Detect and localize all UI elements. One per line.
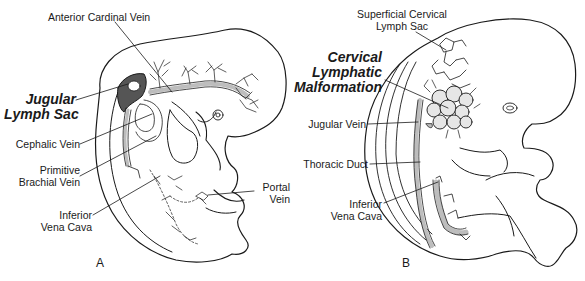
label-primitive-brachial-vein: Primitive Brachial Vein	[4, 164, 80, 188]
label-superficial-cervical-lymph-sac-line1: Superficial Cervical	[346, 8, 458, 20]
panel-b-embryo	[365, 19, 577, 266]
label-jugular-vein: Jugular Vein	[290, 118, 366, 130]
label-jugular-lymph-sac: Jugular Lymph Sac	[4, 92, 76, 122]
label-jugular-lymph-sac-line1: Jugular	[4, 92, 76, 107]
label-primitive-brachial-vein-line2: Brachial Vein	[4, 176, 80, 188]
label-portal-vein: Portal Vein	[240, 181, 290, 205]
label-inferior-vena-cava-b-line1: Inferior	[290, 198, 382, 210]
panel-a-leader-lines	[76, 22, 254, 215]
label-cephalic-vein: Cephalic Vein	[4, 138, 80, 150]
label-cervical-lymphatic-malformation: Cervical Lymphatic Malformation	[290, 50, 382, 95]
figure-artwork	[0, 0, 585, 281]
label-jugular-lymph-sac-line2: Lymph Sac	[4, 107, 76, 122]
label-inferior-vena-cava-a-line2: Vena Cava	[4, 221, 92, 233]
label-inferior-vena-cava-a-line1: Inferior	[4, 209, 92, 221]
label-portal-vein-line1: Portal	[240, 181, 290, 193]
panel-label-b: B	[402, 256, 410, 270]
label-superficial-cervical-lymph-sac-line2: Lymph Sac	[346, 20, 458, 32]
label-cervical-lymphatic-malformation-line2: Lymphatic	[290, 65, 382, 80]
label-primitive-brachial-vein-line1: Primitive	[4, 164, 80, 176]
label-inferior-vena-cava-b-line2: Vena Cava	[290, 210, 382, 222]
panel-label-a: A	[96, 256, 104, 270]
label-inferior-vena-cava-a: Inferior Vena Cava	[4, 209, 92, 233]
label-superficial-cervical-lymph-sac: Superficial Cervical Lymph Sac	[346, 8, 458, 32]
panel-b-vessels	[414, 38, 480, 248]
label-portal-vein-line2: Vein	[240, 193, 290, 205]
panel-a-vessels	[117, 60, 258, 244]
label-thoracic-duct: Thoracic Duct	[290, 158, 368, 170]
label-inferior-vena-cava-b: Inferior Vena Cava	[290, 198, 382, 222]
label-anterior-cardinal-vein: Anterior Cardinal Vein	[48, 11, 150, 23]
label-cervical-lymphatic-malformation-line1: Cervical	[290, 50, 382, 65]
label-cervical-lymphatic-malformation-line3: Malformation	[290, 80, 382, 95]
